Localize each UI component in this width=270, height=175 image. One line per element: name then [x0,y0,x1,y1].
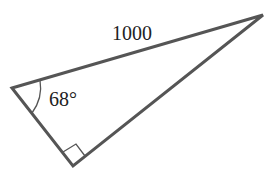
triangle-diagram: 1000 68° [0,0,270,175]
hypotenuse-label: 1000 [112,22,152,44]
angle-label: 68° [49,88,77,110]
angle-arc [32,80,41,113]
right-angle-marker [63,144,85,156]
